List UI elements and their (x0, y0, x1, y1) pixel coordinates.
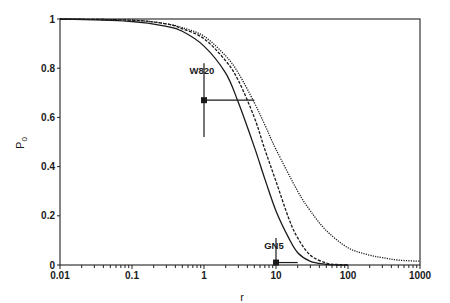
y-axis-label: P0 (14, 137, 29, 149)
annotation-label: GN5 (264, 240, 284, 251)
y-axis: 00.20.40.60.81 (41, 14, 60, 271)
x-tick-label: 1000 (409, 270, 432, 281)
series-curve-dashed (60, 19, 348, 265)
data-marker (201, 97, 207, 103)
series-curve-solid (60, 19, 348, 265)
x-axis-label: r (240, 291, 244, 303)
annotation-layer: W820GN5 (190, 63, 298, 265)
y-tick-label: 0.2 (41, 210, 55, 221)
annotation-w820: W820 (190, 63, 255, 137)
y-tick-label: 1 (49, 14, 55, 25)
y-tick-label: 0.8 (41, 63, 55, 74)
y-tick-label: 0.6 (41, 112, 55, 123)
y-tick-label: 0.4 (41, 161, 55, 172)
x-tick-label: 0.01 (50, 270, 70, 281)
series-layer (60, 19, 420, 265)
y-tick-label: 0 (49, 260, 55, 271)
series-curve-dotted (60, 19, 420, 261)
annotation-label: W820 (190, 65, 215, 76)
x-axis: 0.010.11101001000 (50, 265, 431, 281)
x-tick-label: 1 (201, 270, 207, 281)
x-tick-label: 10 (270, 270, 282, 281)
plot-frame (60, 19, 420, 265)
x-tick-label: 100 (340, 270, 357, 281)
chart: 00.20.40.60.81 0.010.11101001000 W820GN5… (0, 0, 450, 303)
data-marker (273, 260, 279, 266)
x-tick-label: 0.1 (125, 270, 139, 281)
svg-text:P0: P0 (14, 137, 29, 149)
annotation-gn5: GN5 (264, 238, 297, 266)
